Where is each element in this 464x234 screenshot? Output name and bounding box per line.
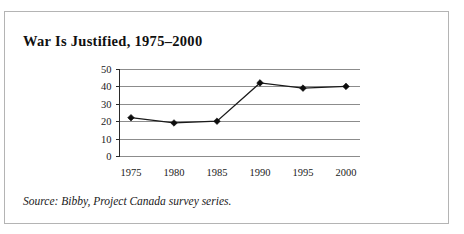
x-tick-label-1985: 1985: [207, 167, 228, 178]
y-tick-labels-group: 01020304050: [101, 64, 112, 162]
source-note: Source: Bibby, Project Canada survey ser…: [23, 195, 231, 207]
y-tick-label-50: 50: [101, 64, 112, 75]
data-point-2000: [343, 83, 350, 90]
x-tick-label-1990: 1990: [250, 167, 271, 178]
y-axis-group: [116, 69, 120, 157]
plot-area: 01020304050 197519801985199019952000: [5, 12, 450, 225]
series-line-0: [131, 83, 346, 123]
figure-border-box: War Is Justified, 1975–2000 01020304050 …: [4, 11, 449, 224]
x-tick-label-2000: 2000: [336, 167, 357, 178]
x-tick-label-1980: 1980: [164, 167, 185, 178]
data-point-1980: [171, 120, 178, 127]
data-point-1995: [300, 85, 307, 92]
gridlines-group: [119, 70, 360, 157]
x-tick-label-1995: 1995: [293, 167, 314, 178]
data-series-group: [131, 83, 346, 123]
data-point-1975: [128, 114, 135, 121]
y-tick-label-0: 0: [106, 151, 111, 162]
y-tick-label-20: 20: [101, 116, 112, 127]
y-tick-label-40: 40: [101, 81, 112, 92]
y-tick-label-30: 30: [101, 99, 112, 110]
x-tick-label-1975: 1975: [121, 167, 142, 178]
line-chart-svg: 01020304050 197519801985199019952000: [5, 12, 450, 225]
y-tick-label-10: 10: [101, 134, 112, 145]
x-tick-labels-group: 197519801985199019952000: [121, 167, 357, 178]
